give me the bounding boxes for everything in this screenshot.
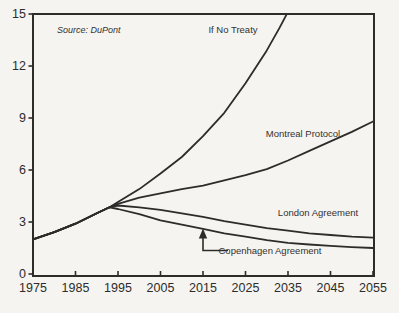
y-tick-label: 9 xyxy=(19,111,26,125)
x-tick-label: 2055 xyxy=(359,281,387,295)
y-tick-label: 6 xyxy=(19,163,26,177)
y-tick-label: 15 xyxy=(12,7,26,21)
x-tick-label: 1995 xyxy=(104,281,132,295)
x-tick-label: 2045 xyxy=(317,281,345,295)
y-tick-label: 12 xyxy=(12,59,26,73)
series-label-no-treaty: If No Treaty xyxy=(208,24,257,35)
x-tick-label: 2035 xyxy=(274,281,302,295)
y-tick-label: 0 xyxy=(19,267,26,281)
x-tick-label: 2005 xyxy=(147,281,175,295)
series-label-copenhagen-agreement: Copenhagen Agreement xyxy=(219,245,322,256)
series-label-montreal-protocol: Montreal Protocol xyxy=(266,128,340,139)
y-axis: 03691215 xyxy=(12,7,33,281)
source-note: Source: DuPont xyxy=(57,25,121,35)
chart-plot-svg: 0369121519751985199520052015202520352045… xyxy=(0,0,399,313)
cfc-scenarios-chart: 0369121519751985199520052015202520352045… xyxy=(0,0,399,313)
series-line-no-treaty xyxy=(33,4,292,240)
x-tick-label: 1985 xyxy=(62,281,90,295)
series-line-montreal-protocol xyxy=(33,122,373,240)
x-tick-label: 2025 xyxy=(232,281,260,295)
x-tick-label: 1975 xyxy=(19,281,47,295)
y-tick-label: 3 xyxy=(19,215,26,229)
x-tick-label: 2015 xyxy=(189,281,217,295)
series-label-london-agreement: London Agreement xyxy=(278,207,358,218)
x-axis: 197519851995200520152025203520452055 xyxy=(19,271,387,295)
